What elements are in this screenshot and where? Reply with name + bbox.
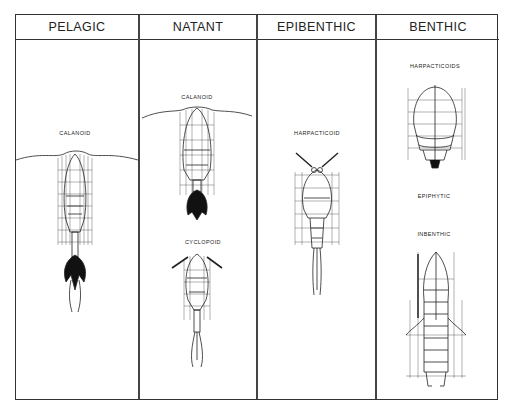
- copepod-drawings: [0, 0, 508, 410]
- epibenthic-harpacticoid-drawing: [295, 153, 339, 295]
- pelagic-calanoid-drawing: [16, 151, 138, 312]
- benthic-inbenthic-harpacticoid-drawing: [406, 252, 466, 386]
- benthic-epiphytic-harpacticoid-drawing: [408, 85, 465, 168]
- natant-cyclopoid-drawing: [172, 254, 222, 367]
- natant-calanoid-drawing: [142, 107, 252, 220]
